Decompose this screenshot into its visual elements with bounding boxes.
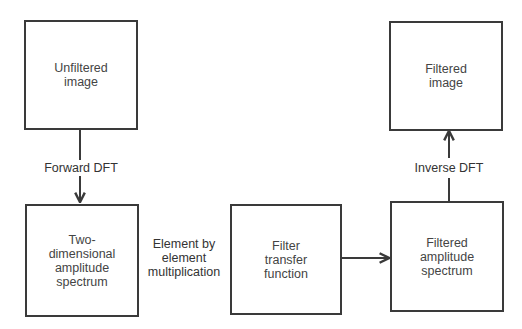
edge-label-inverse-dft: Inverse DFT — [408, 161, 490, 175]
node-filter-transfer-function: Filter transfer function — [230, 204, 342, 315]
node-label: Filtered amplitude spectrum — [420, 236, 474, 278]
edge-label-multiplication: Element by element multiplication — [142, 237, 226, 279]
node-filtered-amplitude-spectrum: Filtered amplitude spectrum — [390, 201, 504, 312]
node-label: Filter transfer function — [264, 239, 308, 281]
node-unfiltered-image: Unfiltered image — [24, 20, 138, 130]
node-label: Filtered image — [425, 62, 467, 90]
node-amplitude-spectrum: Two- dimensional amplitude spectrum — [25, 204, 139, 317]
edge-label-forward-dft: Forward DFT — [38, 161, 124, 175]
node-filtered-image: Filtered image — [389, 21, 503, 131]
node-label: Unfiltered image — [54, 61, 108, 89]
node-label: Two- dimensional amplitude spectrum — [49, 233, 116, 289]
